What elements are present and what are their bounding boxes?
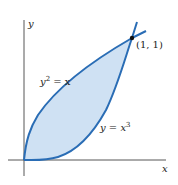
x-axis-label: x bbox=[162, 163, 168, 174]
label-rest: = x bbox=[50, 76, 71, 87]
label-y-squared-equals-x: y2 = x bbox=[39, 75, 71, 87]
label-y-equals-x-cubed: y = x3 bbox=[99, 121, 131, 133]
y-axis-label: y bbox=[27, 18, 34, 29]
intersection-label: (1, 1) bbox=[136, 39, 163, 50]
intersection-point bbox=[130, 36, 134, 40]
shaded-region bbox=[24, 38, 132, 160]
diagram-canvas: y x (1, 1) y2 = x y = x3 bbox=[0, 0, 178, 185]
